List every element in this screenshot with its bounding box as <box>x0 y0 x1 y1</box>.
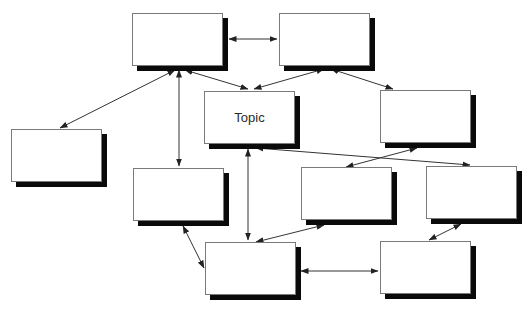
node-box[interactable] <box>205 242 296 295</box>
node-box[interactable] <box>380 90 471 143</box>
node-n2[interactable] <box>279 13 375 71</box>
node-n8[interactable] <box>426 166 522 224</box>
edge-n2-n4 <box>331 69 393 89</box>
edge-n1-n5 <box>60 70 175 128</box>
node-box[interactable] <box>133 168 224 221</box>
node-box[interactable] <box>279 13 370 66</box>
node-box[interactable] <box>132 13 223 66</box>
edge-n2-topic <box>254 69 324 89</box>
edge-n4-n7 <box>346 148 417 167</box>
node-topic[interactable]: Topic <box>204 91 300 149</box>
node-box[interactable]: Topic <box>204 91 295 144</box>
node-box[interactable] <box>380 241 471 294</box>
node-n10[interactable] <box>380 241 476 299</box>
node-n6[interactable] <box>133 168 229 226</box>
edge-n8-n10 <box>429 224 461 240</box>
node-n9[interactable] <box>205 242 301 300</box>
edge-n1-topic <box>185 70 248 89</box>
node-box[interactable] <box>11 129 102 182</box>
node-box[interactable] <box>426 166 517 219</box>
node-label: Topic <box>234 110 264 125</box>
node-n1[interactable] <box>132 13 228 71</box>
node-n5[interactable] <box>11 129 107 187</box>
edge-group <box>60 39 470 271</box>
node-box[interactable] <box>301 167 392 220</box>
edge-n7-n9 <box>256 225 324 242</box>
node-n7[interactable] <box>301 167 397 225</box>
concept-map-diagram: Topic <box>0 0 531 309</box>
edge-n6-n9 <box>183 226 204 268</box>
node-n4[interactable] <box>380 90 476 148</box>
